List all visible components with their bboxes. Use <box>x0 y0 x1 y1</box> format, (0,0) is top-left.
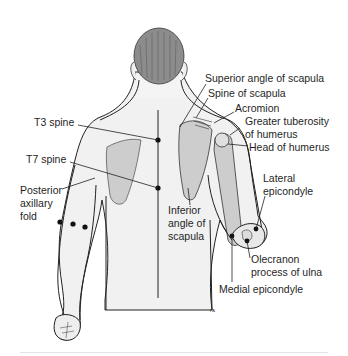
anatomy-figure: Superior angle of scapula Spine of scapu… <box>0 0 348 356</box>
label-head-of-humerus: Head of humerus <box>249 141 330 154</box>
label-inferior-angle-line2: angle of <box>168 217 205 230</box>
artist-credit: PA <box>210 308 215 313</box>
head-hair <box>134 28 184 84</box>
label-posterior-axillary-line1: Posterior <box>20 184 62 197</box>
arm-dot-3 <box>82 224 87 229</box>
label-olecranon-line2: process of ulna <box>251 266 322 279</box>
label-spine-of-scapula: Spine of scapula <box>208 87 286 100</box>
label-olecranon-line1: Olecranon <box>251 253 299 266</box>
posterior-body-illustration <box>0 0 348 356</box>
label-t7-spine: T7 spine <box>26 153 66 166</box>
arm-dot-1 <box>57 219 62 224</box>
label-greater-tuberosity-line1: Greater tuberosity <box>245 115 329 128</box>
label-superior-angle-of-scapula: Superior angle of scapula <box>205 72 324 85</box>
label-acromion: Acromion <box>235 102 279 115</box>
label-inferior-angle-line3: scapula <box>168 230 204 243</box>
label-lateral-epicondyle-line1: Lateral <box>263 172 295 185</box>
arm-dot-2 <box>70 221 75 226</box>
label-inferior-angle-line1: Inferior <box>168 204 201 217</box>
bottom-divider <box>20 352 328 353</box>
label-posterior-axillary-line3: fold <box>20 210 37 223</box>
label-medial-epicondyle: Medial epicondyle <box>219 283 303 296</box>
label-posterior-axillary-line2: axillary <box>20 197 53 210</box>
label-lateral-epicondyle-line2: epicondyle <box>263 185 313 198</box>
humeral-head <box>215 133 229 147</box>
label-t3-spine: T3 spine <box>34 116 74 129</box>
label-greater-tuberosity-line2: of humerus <box>245 128 298 141</box>
